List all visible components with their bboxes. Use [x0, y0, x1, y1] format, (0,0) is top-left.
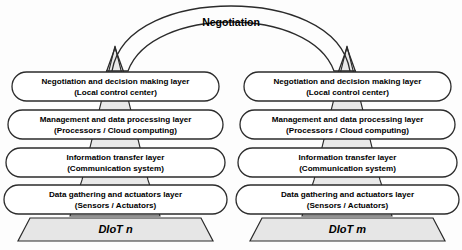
- layer-title: Management and data processing layer: [272, 115, 424, 124]
- layer-subtitle: (Sensors / Actuators): [75, 201, 157, 210]
- layer-right-3[interactable]: Information transfer layer (Communicatio…: [238, 148, 457, 177]
- stack-right: Negotiation and decision making layer (L…: [236, 46, 459, 241]
- stack-left: Negotiation and decision making layer (L…: [4, 46, 227, 241]
- layer-title: Negotiation and decision making layer: [274, 77, 423, 86]
- layer-subtitle: (Processors / Cloud computing): [54, 126, 177, 135]
- layer-subtitle: (Local control center): [74, 88, 157, 97]
- layer-left-1[interactable]: Negotiation and decision making layer (L…: [12, 72, 219, 101]
- base-right[interactable]: DIoT m: [250, 218, 445, 241]
- negotiation-arc-inner: [106, 22, 356, 71]
- layer-title: Information transfer layer: [66, 153, 165, 162]
- layer-subtitle: (Communication system): [67, 164, 164, 173]
- negotiation-connector[interactable]: Negotiation: [106, 6, 356, 71]
- layer-subtitle: (Sensors / Actuators): [307, 201, 389, 210]
- negotiation-label: Negotiation: [202, 16, 260, 28]
- layer-right-2[interactable]: Management and data processing layer (Pr…: [240, 110, 455, 139]
- diagram-svg: Negotiation and decision making layer (L…: [0, 0, 462, 250]
- layer-subtitle: (Local control center): [306, 88, 389, 97]
- layer-right-1[interactable]: Negotiation and decision making layer (L…: [244, 72, 451, 101]
- layer-title: Data gathering and actuators layer: [49, 190, 183, 199]
- layer-subtitle: (Communication system): [299, 164, 396, 173]
- layer-title: Data gathering and actuators layer: [281, 190, 415, 199]
- layer-title: Negotiation and decision making layer: [42, 77, 191, 86]
- base-label: DIoT n: [98, 223, 132, 235]
- layer-right-4[interactable]: Data gathering and actuators layer (Sens…: [236, 185, 459, 214]
- layer-title: Management and data processing layer: [40, 115, 192, 124]
- diagram-canvas: Negotiation and decision making layer (L…: [0, 0, 462, 250]
- base-left[interactable]: DIoT n: [18, 218, 213, 241]
- layer-left-4[interactable]: Data gathering and actuators layer (Sens…: [4, 185, 227, 214]
- base-label: DIoT m: [329, 223, 366, 235]
- layer-subtitle: (Processors / Cloud computing): [286, 126, 409, 135]
- layer-left-2[interactable]: Management and data processing layer (Pr…: [8, 110, 223, 139]
- layer-title: Information transfer layer: [298, 153, 397, 162]
- layer-left-3[interactable]: Information transfer layer (Communicatio…: [6, 148, 225, 177]
